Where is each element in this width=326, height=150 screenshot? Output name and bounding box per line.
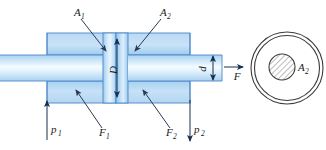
- area-annulus-label-sub: 2: [167, 12, 171, 21]
- rod-left: [0, 55, 103, 81]
- pressure-left-label: p: [50, 123, 57, 135]
- section-area-label: A: [297, 61, 305, 73]
- area-piston-label: A: [73, 6, 81, 18]
- area-annulus-label: A: [159, 6, 167, 18]
- rod-diameter-label: d: [196, 66, 208, 72]
- force-right-label: F: [165, 126, 173, 138]
- bore-diameter-label: D: [107, 66, 119, 75]
- pressure-right-label-sub: 2: [201, 129, 205, 138]
- figure-canvas: D d F A 1 A 2 p 1 p 2: [0, 0, 326, 150]
- area-piston-label-sub: 1: [81, 12, 85, 21]
- hydraulic-cylinder-figure: D d F A 1 A 2 p 1 p 2: [0, 0, 326, 150]
- section-area-label-sub: 2: [305, 67, 309, 76]
- output-force-label: F: [233, 70, 241, 82]
- section-rod-hatched-circle: [269, 54, 295, 80]
- force-left-label-sub: 1: [106, 132, 110, 141]
- force-right-label-sub: 2: [173, 132, 177, 141]
- pressure-right-label: p: [193, 123, 200, 135]
- section-view: [251, 32, 323, 104]
- pressure-left-label-sub: 1: [58, 129, 62, 138]
- force-left-label: F: [98, 126, 106, 138]
